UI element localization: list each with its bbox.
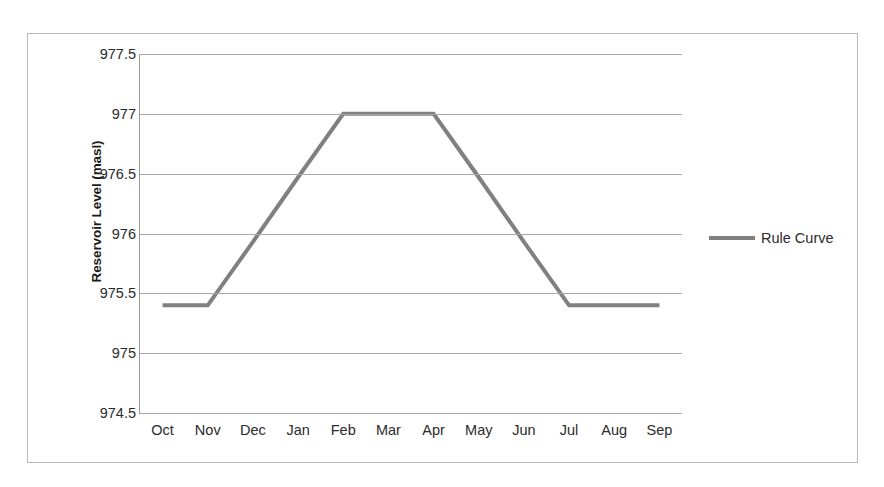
gridline [140,114,682,115]
gridline [140,413,682,414]
gridline [140,174,682,175]
chart-legend: Rule Curve [709,230,834,246]
x-axis-tick-label: Jan [286,422,309,438]
legend-label-rule-curve: Rule Curve [761,230,834,246]
y-axis-tick-label: 977.5 [46,46,136,62]
gridline [140,54,682,55]
x-axis-tick-label: Jun [512,422,535,438]
x-axis-tick-label: Apr [422,422,445,438]
line-series-rule-curve [163,114,660,305]
y-axis-tick-label: 975.5 [46,285,136,301]
legend-swatch-rule-curve [709,236,755,240]
x-axis-tick-label: May [465,422,492,438]
x-axis-tick-label: Sep [647,422,673,438]
y-axis-tick-label: 974.5 [46,405,136,421]
y-axis-tick-label: 976.5 [46,166,136,182]
x-axis-tick-label: Aug [601,422,627,438]
x-axis-tick-label: Oct [151,422,174,438]
y-axis-tick-label: 975 [46,345,136,361]
x-axis-tick-label: Mar [376,422,401,438]
gridline [140,234,682,235]
x-axis-tick-label: Jul [560,422,579,438]
gridline [140,293,682,294]
y-axis-tick-label: 977 [46,106,136,122]
y-axis-tick-label: 976 [46,226,136,242]
x-axis-tick-label: Dec [240,422,266,438]
gridline [140,353,682,354]
x-axis-tick-label: Nov [195,422,221,438]
chart-frame: Reservoir Level (masl) 977.5977976.59769… [27,33,858,463]
plot-area: 977.5977976.5976975.5975974.5OctNovDecJa… [139,54,682,414]
x-axis-tick-label: Feb [331,422,356,438]
figure-canvas: Reservoir Level (masl) 977.5977976.59769… [0,0,884,487]
